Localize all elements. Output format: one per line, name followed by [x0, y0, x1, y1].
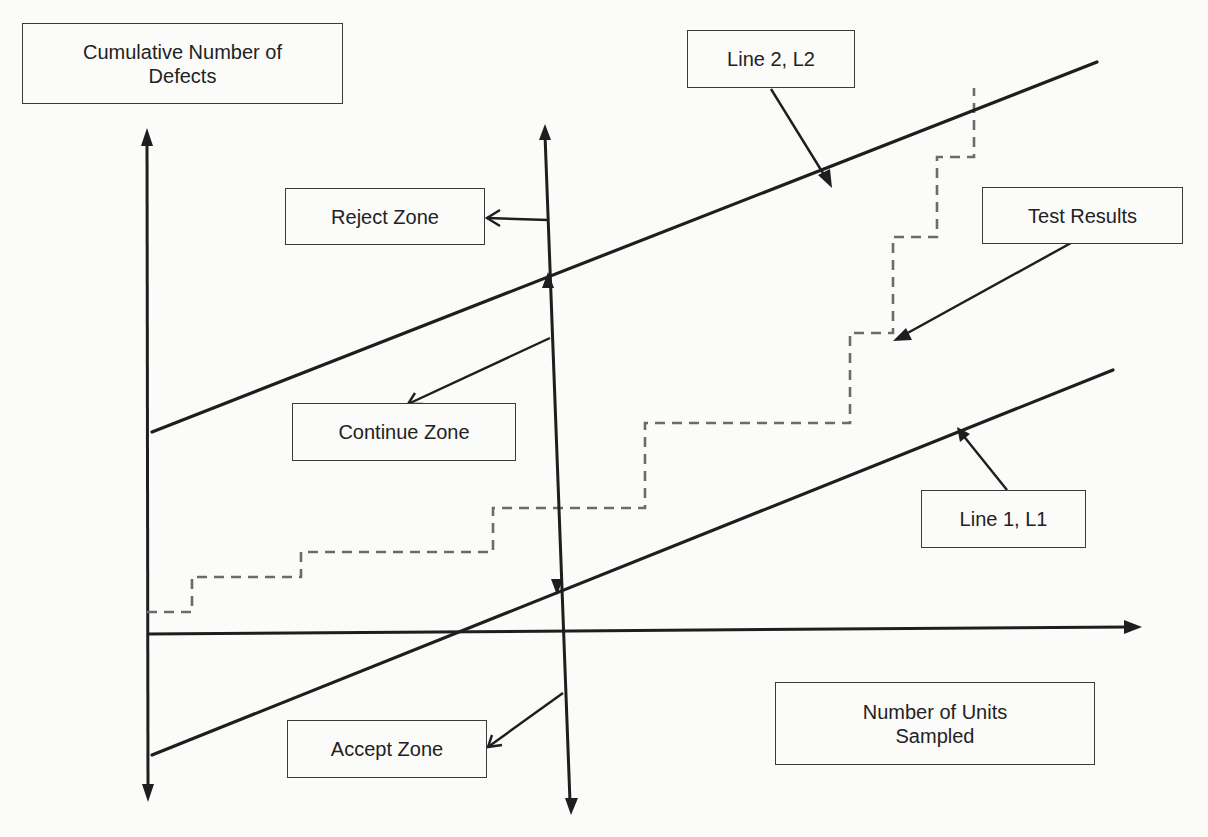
reject-zone-pointer — [487, 210, 548, 226]
line2-label-pointer — [771, 89, 832, 188]
continue-zone-pointer — [408, 338, 550, 404]
continue-zone-label: Continue Zone — [338, 420, 469, 444]
test-results-label: Test Results — [1028, 204, 1137, 228]
line1-label-box: Line 1, L1 — [921, 490, 1086, 548]
line2-label: Line 2, L2 — [727, 47, 815, 71]
y-axis — [141, 128, 154, 802]
x-axis-label-line2: Sampled — [896, 724, 975, 748]
accept-zone-box: Accept Zone — [287, 720, 487, 778]
reject-zone-box: Reject Zone — [285, 188, 485, 245]
reject-zone-label: Reject Zone — [331, 205, 439, 229]
x-axis — [147, 620, 1142, 634]
y-axis-up-arrowhead — [141, 128, 153, 146]
continue-zone-box: Continue Zone — [292, 403, 516, 461]
test-results-pointer — [893, 243, 1071, 341]
y-axis-label-line1: Cumulative Number of — [83, 40, 282, 64]
accept-zone-label: Accept Zone — [331, 737, 443, 761]
x-axis-label-box: Number of Units Sampled — [775, 682, 1095, 765]
x-axis-right-arrowhead — [1124, 620, 1142, 634]
line-l2 — [152, 62, 1097, 432]
zone-divider — [539, 124, 578, 815]
accept-zone-pointer — [488, 693, 563, 747]
y-axis-label-box: Cumulative Number of Defects — [22, 23, 343, 104]
y-axis-label-line2: Defects — [149, 64, 217, 88]
y-axis-down-arrowhead — [142, 784, 154, 802]
line2-label-box: Line 2, L2 — [687, 30, 855, 88]
line1-label: Line 1, L1 — [960, 507, 1048, 531]
x-axis-label-line1: Number of Units — [863, 700, 1008, 724]
test-results-box: Test Results — [982, 187, 1183, 244]
sequential-sampling-diagram: Cumulative Number of Defects Line 2, L2 … — [0, 0, 1208, 837]
zone-divider-top-arrowhead — [539, 124, 551, 140]
zone-divider-bottom-arrowhead — [565, 798, 578, 815]
line1-label-pointer — [957, 427, 1007, 490]
